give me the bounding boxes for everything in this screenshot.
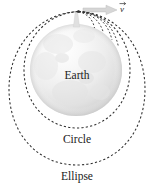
figure-container: v Earth Circle Ellipse bbox=[0, 0, 155, 188]
ellipse-label: Ellipse bbox=[61, 170, 93, 183]
velocity-label-text: v bbox=[120, 4, 124, 14]
orbit-diagram: v Earth Circle Ellipse bbox=[0, 0, 155, 188]
circle-label: Circle bbox=[63, 133, 91, 145]
earth-label: Earth bbox=[65, 69, 90, 81]
